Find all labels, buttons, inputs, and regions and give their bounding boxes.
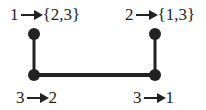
arrow-icon: [27, 97, 47, 99]
label-top-left-to: {2,3}: [43, 6, 81, 23]
arrow-icon: [144, 97, 164, 99]
label-top-right-to: {1,3}: [158, 6, 196, 23]
node-top-left: [28, 28, 40, 40]
label-bottom-right: 3 1: [133, 89, 174, 106]
node-bottom-left: [28, 69, 40, 81]
label-top-left-from: 1: [10, 6, 19, 23]
label-top-left: 1 {2,3}: [10, 6, 80, 23]
label-top-right: 2 {1,3}: [125, 6, 195, 23]
arrow-icon: [136, 14, 156, 16]
node-bottom-right: [149, 69, 161, 81]
arrow-icon: [21, 14, 41, 16]
label-top-right-from: 2: [125, 6, 134, 23]
label-bottom-left-to: 2: [49, 89, 58, 106]
node-top-right: [149, 28, 161, 40]
label-bottom-left: 3 2: [16, 89, 57, 106]
label-bottom-left-from: 3: [16, 89, 25, 106]
label-bottom-right-from: 3: [133, 89, 142, 106]
label-bottom-right-to: 1: [166, 89, 175, 106]
